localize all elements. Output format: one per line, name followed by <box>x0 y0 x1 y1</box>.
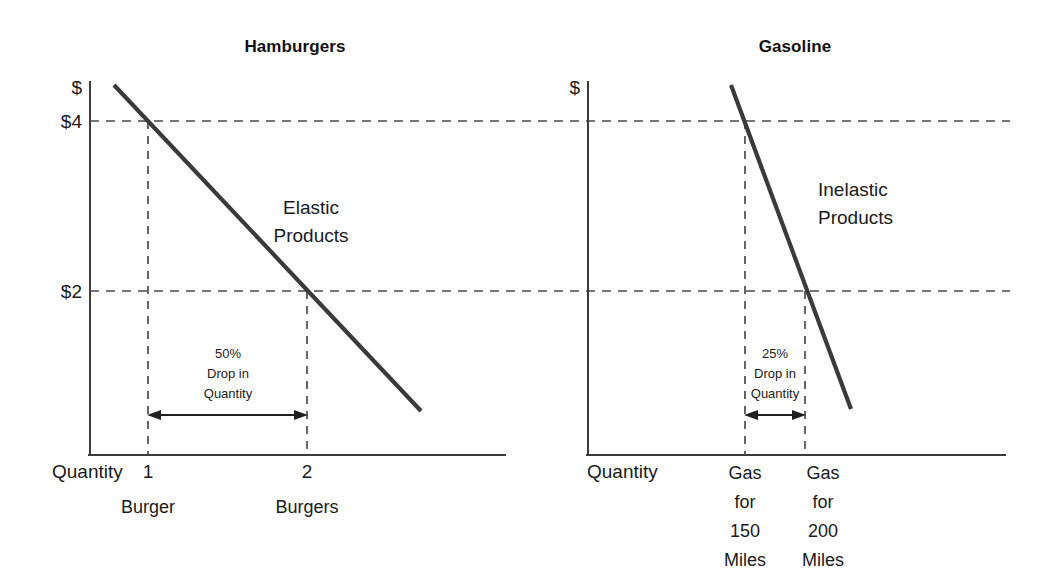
curve-label-inelastic-line1: Inelastic <box>818 179 888 200</box>
x-tick-2-line4-right: Miles <box>802 550 844 570</box>
panel-title-hamburgers: Hamburgers <box>244 37 345 56</box>
annotation-drop-right: Drop in <box>754 366 796 381</box>
x-tick-2-line3-right: 200 <box>808 521 838 541</box>
annotation-quantity-right: Quantity <box>751 386 800 401</box>
figure-canvas: Hamburgers $ $4 $2 Elastic Products 50% … <box>0 0 1057 587</box>
x-tick-1-line4-right: Miles <box>724 550 766 570</box>
curve-label-elastic-line2: Products <box>274 225 349 246</box>
x-tick-unit-2-right: Gas for 200 Miles <box>802 463 844 570</box>
curve-label-inelastic-line2: Products <box>818 207 893 228</box>
quantity-change-arrow-right <box>744 410 806 420</box>
curve-label-elastic-line1: Elastic <box>283 197 339 218</box>
x-tick-unit-2-left: Burgers <box>275 497 338 517</box>
x-tick-1-line1-right: Gas <box>728 463 761 483</box>
annotation-quantity-left: Quantity <box>204 386 253 401</box>
demand-curve-inelastic <box>731 85 851 409</box>
x-tick-2-line1-right: Gas <box>806 463 839 483</box>
demand-curve-elastic <box>114 85 421 411</box>
panel-title-gasoline: Gasoline <box>759 37 832 56</box>
x-tick-2-line2-right: for <box>812 492 833 512</box>
panel-hamburgers: Hamburgers $ $4 $2 Elastic Products 50% … <box>52 37 1010 517</box>
annotation-percent-right: 25% <box>762 346 788 361</box>
x-axis-label-right: Quantity <box>587 461 658 482</box>
y-axis-currency-label-left: $ <box>71 77 82 98</box>
x-tick-unit-1-left: Burger <box>121 497 175 517</box>
x-tick-unit-1-right: Gas for 150 Miles <box>724 463 766 570</box>
x-tick-1-line2-right: for <box>734 492 755 512</box>
elasticity-comparison-figure: Hamburgers $ $4 $2 Elastic Products 50% … <box>0 0 1057 587</box>
annotation-percent-left: 50% <box>215 346 241 361</box>
panel-gasoline: Gasoline $ Inelastic Products 25% Drop i… <box>569 37 1005 570</box>
x-tick-number-2-left: 2 <box>302 461 313 482</box>
annotation-drop-left: Drop in <box>207 366 249 381</box>
price-label-4-left: $4 <box>61 111 83 132</box>
x-tick-1-line3-right: 150 <box>730 521 760 541</box>
x-axis-label-left: Quantity <box>52 461 123 482</box>
price-label-2-left: $2 <box>61 281 82 302</box>
y-axis-currency-label-right: $ <box>569 77 580 98</box>
quantity-change-arrow-left <box>147 410 308 420</box>
x-tick-number-1-left: 1 <box>143 461 154 482</box>
